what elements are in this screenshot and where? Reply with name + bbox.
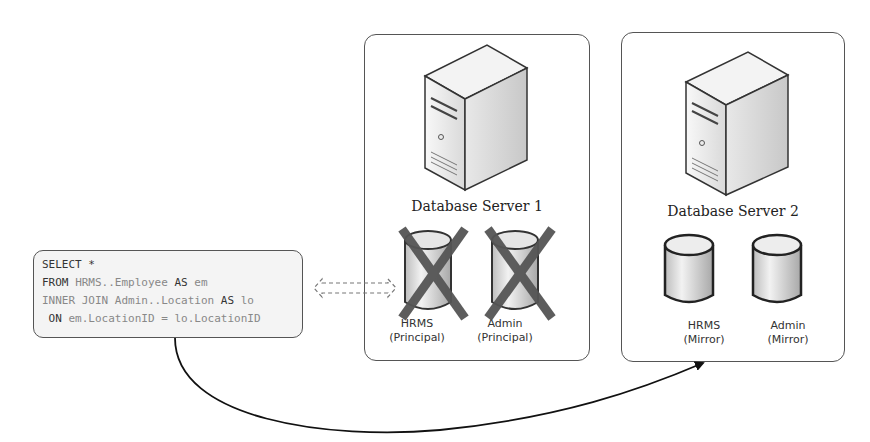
server-2-admin-db-icon	[753, 235, 801, 302]
dashed-connection-arrow	[314, 279, 396, 297]
diagram-graphics	[0, 0, 870, 442]
server-1-icon	[425, 45, 527, 190]
failover-curved-arrow	[175, 338, 703, 432]
server-2-icon	[686, 52, 788, 195]
server-2-hrms-db-icon	[665, 235, 713, 302]
